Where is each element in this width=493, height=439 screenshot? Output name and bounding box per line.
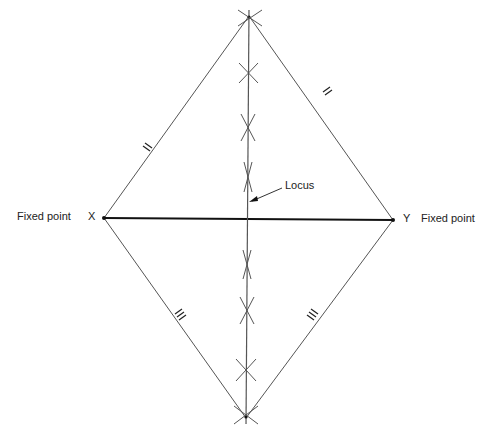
fixed-point-left-label: Fixed point [17, 211, 71, 222]
point-y-marker [391, 218, 395, 222]
arc-intersection-top [238, 10, 262, 26]
locus-arrowhead-icon [249, 196, 258, 202]
equal-mark-x-bottom [175, 309, 186, 320]
xy-line [104, 218, 393, 220]
equal-mark-x-top [143, 143, 152, 151]
edge-bottom-y [246, 220, 393, 418]
point-x-marker [102, 216, 106, 220]
locus-label: Locus [285, 180, 314, 191]
point-y-label: Y [403, 213, 410, 224]
fixed-point-right-label: Fixed point [421, 213, 475, 224]
perpendicular-bisector-diagram [0, 0, 493, 439]
edge-x-top [104, 16, 249, 218]
point-x-label: X [88, 211, 95, 222]
equal-mark-bottom-y [307, 309, 318, 320]
equal-mark-top-y [323, 87, 332, 95]
edge-top-y [249, 16, 393, 220]
edge-x-bottom [104, 218, 246, 418]
